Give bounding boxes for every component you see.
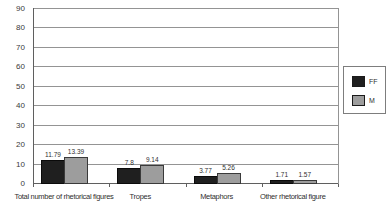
y-axis-line (33, 8, 34, 184)
x-axis-tick (33, 184, 34, 187)
gridline-70 (33, 47, 338, 48)
legend-swatch-m (352, 95, 365, 106)
bar-value-label: 9.14 (137, 156, 167, 164)
y-axis-label-30: 30 (0, 121, 29, 130)
bar-ff-c2 (194, 176, 218, 184)
plot-right-border (338, 8, 339, 184)
y-axis-label-60: 60 (0, 62, 29, 71)
y-axis-label-20: 20 (0, 140, 29, 149)
x-axis-tick (338, 184, 339, 187)
y-axis-label-50: 50 (0, 82, 29, 91)
bar-ff-c1 (117, 168, 141, 184)
bar-ff-c3 (270, 180, 294, 184)
bar-value-label: 1.57 (290, 171, 320, 179)
bar-value-label: 5.26 (214, 164, 244, 172)
x-category-label: Other rhetorical figure (233, 192, 353, 201)
legend-label-ff: FF (369, 77, 378, 86)
gridline-80 (33, 27, 338, 28)
bar-m-c3 (293, 180, 317, 184)
rhetorical-figures-bar-chart: 010203040506070809011.7913.39Total numbe… (0, 0, 390, 206)
y-axis-label-0: 0 (0, 179, 29, 188)
gridline-40 (33, 105, 338, 106)
y-axis-label-10: 10 (0, 160, 29, 169)
bar-ff-c0 (41, 160, 65, 184)
x-axis-tick (186, 184, 187, 187)
x-axis-tick (109, 184, 110, 187)
bar-m-c0 (64, 157, 88, 184)
y-axis-label-40: 40 (0, 101, 29, 110)
bar-m-c1 (140, 165, 164, 184)
bar-m-c2 (217, 173, 241, 184)
bar-value-label: 13.39 (61, 148, 91, 156)
x-axis-tick (262, 184, 263, 187)
legend-label-m: M (369, 96, 375, 105)
gridline-60 (33, 66, 338, 67)
gridline-50 (33, 86, 338, 87)
legend-swatch-ff (352, 76, 365, 87)
y-axis-label-80: 80 (0, 23, 29, 32)
y-axis-label-90: 90 (0, 4, 29, 13)
gridline-20 (33, 144, 338, 145)
gridline-90 (33, 8, 338, 9)
gridline-30 (33, 125, 338, 126)
legend: FFM (343, 66, 386, 114)
y-axis-label-70: 70 (0, 43, 29, 52)
